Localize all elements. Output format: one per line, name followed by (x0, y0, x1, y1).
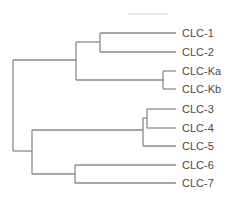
leaf-label-clc-2: CLC-2 (182, 46, 214, 58)
leaf-label-clc-1: CLC-1 (182, 27, 214, 39)
leaf-label-clc-5: CLC-5 (182, 140, 214, 152)
leaf-label-clc-ka: CLC-Ka (182, 65, 221, 77)
leaf-label-clc-7: CLC-7 (182, 177, 214, 189)
leaf-label-clc-6: CLC-6 (182, 159, 214, 171)
leaf-label-clc-kb: CLC-Kb (182, 83, 221, 95)
leaf-label-clc-3: CLC-3 (182, 103, 214, 115)
leaf-label-clc-4: CLC-4 (182, 122, 214, 134)
